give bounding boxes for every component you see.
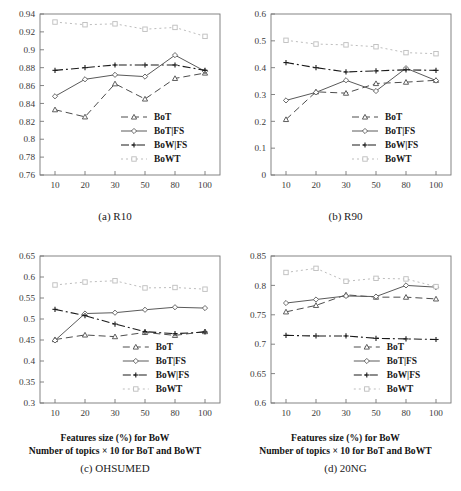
marker-square — [434, 284, 438, 288]
marker-square — [53, 283, 57, 287]
marker-square — [203, 34, 207, 38]
series-line — [286, 63, 436, 72]
data-marker — [403, 336, 408, 341]
legend-entry-label: BoW|FS — [154, 140, 187, 150]
data-marker — [53, 20, 57, 24]
data-marker — [203, 287, 207, 291]
marker-square — [83, 280, 87, 284]
y-axis-tick-label: 0.4 — [24, 356, 36, 366]
data-marker — [113, 22, 117, 26]
data-marker — [112, 62, 117, 67]
series-line — [55, 65, 205, 70]
marker-diamond — [343, 78, 348, 83]
data-marker — [313, 333, 318, 338]
y-axis-tick-label: 0.94 — [19, 9, 35, 19]
marker-square — [173, 285, 177, 289]
chart-r90: 00.10.20.30.40.50.61020305080100BoTBoT|F… — [230, 0, 461, 205]
data-marker — [313, 297, 318, 302]
x-axis-tick-label: 100 — [198, 180, 212, 190]
data-marker — [284, 270, 288, 274]
chart-20ng: 0.60.650.70.750.80.851020305080100BoTBoT… — [230, 250, 461, 435]
marker-square — [203, 287, 207, 291]
data-marker — [82, 65, 87, 70]
data-marker — [82, 332, 87, 337]
marker-triangle — [433, 296, 438, 301]
marker-diamond — [133, 358, 138, 363]
marker-square — [53, 20, 57, 24]
plot-frame — [40, 14, 220, 175]
panel-r90: 00.10.20.30.40.50.61020305080100BoTBoT|F… — [230, 0, 461, 250]
panel-20ng: 0.60.650.70.750.80.851020305080100BoTBoT… — [230, 250, 461, 491]
series-line — [286, 68, 436, 100]
y-axis-tick-label: 0.5 — [255, 36, 267, 46]
marker-square — [143, 27, 147, 31]
chart-legend: BoTBoT|FSBoW|FSBoWT — [121, 112, 187, 164]
data-marker — [363, 157, 367, 161]
data-marker — [173, 285, 177, 289]
data-marker — [343, 78, 348, 83]
y-axis-tick-label: 0.5 — [24, 314, 36, 324]
legend-entry-label: BoT — [387, 342, 405, 352]
data-marker — [314, 42, 318, 46]
x-axis-tick-label: 80 — [170, 180, 180, 190]
x-axis-tick-label: 100 — [429, 180, 443, 190]
y-axis-tick-label: 0.45 — [19, 335, 35, 345]
x-axis-tick-label: 20 — [311, 180, 321, 190]
data-marker — [314, 266, 318, 270]
x-axis-tick-label: 30 — [341, 180, 351, 190]
x-axis-tick-label: 50 — [140, 180, 150, 190]
data-marker — [131, 142, 136, 147]
data-marker — [202, 305, 207, 310]
data-marker — [143, 27, 147, 31]
data-marker — [82, 77, 87, 82]
marker-square — [143, 286, 147, 290]
marker-square — [113, 279, 117, 283]
x-axis-tick-label: 50 — [371, 180, 381, 190]
legend-entry-label: BoT — [154, 112, 172, 122]
marker-diamond — [313, 297, 318, 302]
data-marker — [374, 45, 378, 49]
y-axis-tick-label: 0.6 — [255, 398, 267, 408]
legend-entry-label: BoT|FS — [387, 356, 417, 366]
y-axis-tick-label: 0.75 — [250, 310, 266, 320]
series-line — [286, 285, 436, 303]
marker-square — [132, 157, 136, 161]
marker-diamond — [283, 98, 288, 103]
data-marker — [112, 310, 117, 315]
data-marker — [403, 283, 408, 288]
legend-entry-label: BoW|FS — [156, 370, 189, 380]
y-axis-tick-label: 0.88 — [19, 63, 35, 73]
y-axis-tick-label: 0.6 — [24, 272, 36, 282]
y-axis-tick-label: 0.35 — [19, 377, 35, 387]
y-axis-tick-label: 0.7 — [255, 339, 267, 349]
marker-square — [434, 52, 438, 56]
panel-caption-20ng: (d) 20NG — [230, 462, 461, 474]
figure-grid: 0.760.780.80.820.840.860.880.90.920.9410… — [0, 0, 461, 491]
data-marker — [283, 300, 288, 305]
marker-square — [284, 270, 288, 274]
data-marker — [373, 68, 378, 73]
legend-entry-label: BoT|FS — [385, 126, 415, 136]
marker-diamond — [283, 300, 288, 305]
x-axis-tick-label: 80 — [170, 408, 180, 418]
chart-r10: 0.760.780.80.820.840.860.880.90.920.9410… — [0, 0, 230, 205]
y-axis-tick-label: 0.82 — [19, 117, 35, 127]
series-line — [286, 40, 436, 53]
data-marker — [172, 305, 177, 310]
legend-entry-label: BoT — [385, 112, 403, 122]
marker-square — [134, 387, 138, 391]
series-line — [55, 309, 205, 333]
series-line — [55, 73, 205, 117]
xaxis-title-line2: Number of topics × 10 for BoT and BoWT — [230, 445, 461, 458]
marker-triangle — [112, 81, 117, 86]
data-marker — [172, 62, 177, 67]
marker-diamond — [112, 310, 117, 315]
y-axis-tick-label: 0.55 — [19, 293, 35, 303]
y-axis-tick-label: 0.1 — [255, 143, 267, 153]
data-marker — [404, 50, 408, 54]
chart-legend: BoTBoT|FSBoW|FSBoWT — [352, 112, 418, 164]
panel-ohsumed: 0.30.350.40.450.50.550.60.65102030508010… — [0, 250, 230, 491]
data-marker — [364, 372, 369, 377]
data-marker — [283, 333, 288, 338]
marker-square — [284, 38, 288, 42]
